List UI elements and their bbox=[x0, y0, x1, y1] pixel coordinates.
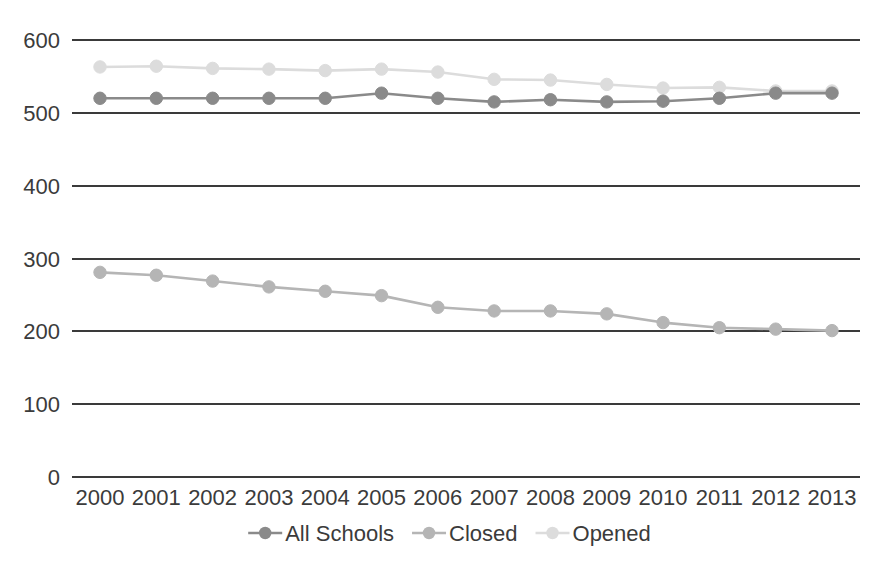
y-axis-tick-label: 500 bbox=[23, 101, 60, 126]
legend-marker-icon bbox=[546, 527, 558, 539]
line-chart: 0100200300400500600 20002001200220032004… bbox=[0, 0, 883, 578]
data-point bbox=[657, 82, 669, 94]
data-point bbox=[263, 63, 275, 75]
data-point bbox=[769, 323, 781, 335]
data-point bbox=[206, 275, 218, 287]
data-point bbox=[713, 92, 725, 104]
chart-legend: All SchoolsClosedOpened bbox=[248, 521, 651, 546]
y-axis-tick-label: 400 bbox=[23, 174, 60, 199]
legend-marker-icon bbox=[423, 527, 435, 539]
data-point bbox=[601, 96, 613, 108]
legend-label: All Schools bbox=[285, 521, 394, 546]
data-point bbox=[826, 324, 838, 336]
legend-label: Opened bbox=[573, 521, 651, 546]
y-axis-tick-label: 300 bbox=[23, 247, 60, 272]
data-point bbox=[319, 64, 331, 76]
data-point bbox=[657, 316, 669, 328]
y-axis-tick-label: 600 bbox=[23, 28, 60, 53]
data-point bbox=[94, 61, 106, 73]
x-axis-tick-label: 2005 bbox=[357, 485, 406, 510]
data-point bbox=[713, 321, 725, 333]
data-point bbox=[375, 87, 387, 99]
data-point bbox=[206, 92, 218, 104]
data-point bbox=[488, 73, 500, 85]
data-point bbox=[769, 87, 781, 99]
data-point bbox=[150, 60, 162, 72]
data-point bbox=[488, 305, 500, 317]
x-axis-tick-label: 2006 bbox=[413, 485, 462, 510]
data-point bbox=[319, 285, 331, 297]
x-axis-tick-label: 2008 bbox=[526, 485, 575, 510]
y-axis-tick-label: 200 bbox=[23, 319, 60, 344]
legend-marker-icon bbox=[259, 527, 271, 539]
data-point bbox=[432, 301, 444, 313]
x-axis-tick-label: 2004 bbox=[301, 485, 350, 510]
data-point bbox=[150, 269, 162, 281]
x-axis-tick-label: 2003 bbox=[244, 485, 293, 510]
data-point bbox=[432, 66, 444, 78]
data-point bbox=[263, 92, 275, 104]
data-point bbox=[319, 92, 331, 104]
data-point bbox=[150, 92, 162, 104]
x-axis-tick-label: 2012 bbox=[751, 485, 800, 510]
data-point bbox=[94, 266, 106, 278]
x-axis-tick-label: 2007 bbox=[470, 485, 519, 510]
data-point bbox=[826, 87, 838, 99]
data-point bbox=[601, 308, 613, 320]
data-point bbox=[432, 92, 444, 104]
x-axis-tick-label: 2001 bbox=[132, 485, 181, 510]
y-axis-tick-label: 100 bbox=[23, 392, 60, 417]
x-axis-tick-label: 2010 bbox=[639, 485, 688, 510]
data-point bbox=[375, 289, 387, 301]
data-point bbox=[544, 305, 556, 317]
data-point bbox=[544, 94, 556, 106]
data-point bbox=[94, 92, 106, 104]
data-point bbox=[544, 74, 556, 86]
legend-label: Closed bbox=[449, 521, 517, 546]
data-point bbox=[263, 281, 275, 293]
data-point bbox=[601, 78, 613, 90]
x-axis-tick-label: 2011 bbox=[696, 485, 743, 510]
data-point bbox=[488, 96, 500, 108]
x-axis-tick-label: 2009 bbox=[582, 485, 631, 510]
x-axis-tick-label: 2000 bbox=[76, 485, 125, 510]
data-point bbox=[657, 95, 669, 107]
data-point bbox=[375, 63, 387, 75]
chart-canvas: 0100200300400500600 20002001200220032004… bbox=[0, 0, 883, 578]
data-point bbox=[206, 62, 218, 74]
x-axis-tick-label: 2002 bbox=[188, 485, 237, 510]
x-axis-tick-label: 2013 bbox=[808, 485, 857, 510]
y-axis-tick-label: 0 bbox=[48, 465, 60, 490]
